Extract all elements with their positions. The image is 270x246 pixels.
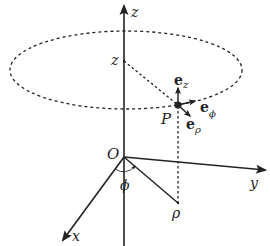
point-p (174, 101, 181, 108)
e-phi-label: e (200, 99, 209, 115)
phi-label: ϕ (120, 177, 130, 193)
e-z-subscript: z (182, 79, 189, 90)
point-p-label: P (160, 110, 172, 128)
z-height-label: z (110, 52, 119, 68)
z-height-point (123, 60, 125, 62)
e-rho-subscript: ρ (194, 124, 201, 135)
radius-dashed-line (124, 61, 178, 105)
e-rho-label: e (186, 116, 195, 132)
y-axis-label: y (249, 175, 259, 191)
dashed-circle-at-height-z (10, 31, 242, 109)
e-z-label: e (174, 72, 183, 88)
e-phi-subscript: ϕ (209, 108, 216, 119)
rho-projection-line (124, 157, 178, 203)
z-axis-label: z (130, 4, 139, 20)
origin-label: O (107, 145, 119, 163)
phi-angle-arc (115, 166, 135, 172)
rho-label: ρ (171, 205, 181, 221)
x-axis-label: x (72, 228, 80, 244)
cylindrical-coordinates-diagram: z z O P ρ ϕ x y e z e ϕ e ρ (0, 0, 270, 246)
y-axis (124, 157, 265, 170)
